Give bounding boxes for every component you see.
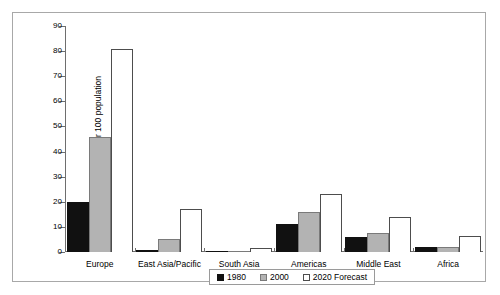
bar[interactable] — [298, 212, 320, 252]
bar[interactable] — [345, 237, 367, 252]
bar[interactable] — [111, 49, 133, 252]
bar[interactable] — [136, 250, 158, 253]
chart-frame: Arrivals generated per 100 population 01… — [12, 12, 486, 282]
bar[interactable] — [206, 251, 228, 252]
bars-container — [204, 26, 274, 252]
bar[interactable] — [389, 217, 411, 252]
x-axis-category-label: Africa — [437, 259, 459, 269]
legend-item-label: 2000 — [270, 272, 289, 282]
bar[interactable] — [250, 248, 272, 252]
bar[interactable] — [415, 247, 437, 252]
y-axis-tick-label: 40 — [53, 146, 62, 157]
legend-swatch-icon — [217, 274, 224, 281]
y-axis-tick-label: 70 — [53, 70, 62, 81]
y-axis-tick-label: 10 — [53, 221, 62, 232]
legend-item[interactable]: 2000 — [260, 272, 289, 282]
bar[interactable] — [89, 137, 111, 253]
bar-group: Americas — [274, 26, 344, 252]
bar[interactable] — [459, 236, 481, 252]
plot-area: 0102030405060708090 EuropeEast Asia/Paci… — [65, 26, 483, 252]
y-axis-tick-label: 20 — [53, 196, 62, 207]
bars-container — [344, 26, 414, 252]
y-axis-tick-label: 30 — [53, 171, 62, 182]
y-axis-tick-label: 90 — [53, 20, 62, 31]
bar[interactable] — [180, 209, 202, 252]
bar-group: Africa — [413, 26, 483, 252]
bars-container — [274, 26, 344, 252]
bar[interactable] — [228, 251, 250, 253]
bar[interactable] — [437, 247, 459, 252]
legend-item[interactable]: 2020 Forecast — [303, 272, 367, 282]
x-axis-category-label: Americas — [291, 259, 326, 269]
x-axis-category-label: Middle East — [356, 259, 400, 269]
bar-group: Middle East — [344, 26, 414, 252]
legend-item-label: 2020 Forecast — [313, 272, 367, 282]
y-axis-tick-label: 60 — [53, 95, 62, 106]
bars-container — [135, 26, 205, 252]
legend-swatch-icon — [260, 274, 267, 281]
chart-legend: 198020002020 Forecast — [209, 269, 375, 285]
x-axis-category-label: South Asia — [219, 259, 260, 269]
legend-swatch-icon — [303, 274, 310, 281]
bar-group: East Asia/Pacific — [135, 26, 205, 252]
y-axis-tick-label: 0 — [58, 246, 62, 257]
x-axis-category-label: East Asia/Pacific — [138, 259, 201, 269]
bars-container — [413, 26, 483, 252]
bar-group: South Asia — [204, 26, 274, 252]
y-axis-tick-label: 80 — [53, 45, 62, 56]
y-axis-tick-label: 50 — [53, 120, 62, 131]
bar[interactable] — [320, 194, 342, 252]
bar[interactable] — [67, 202, 89, 252]
bar[interactable] — [367, 233, 389, 252]
legend-item-label: 1980 — [227, 272, 246, 282]
bar-group: Europe — [65, 26, 135, 252]
bars-container — [65, 26, 135, 252]
x-axis-category-label: Europe — [86, 259, 113, 269]
bar[interactable] — [158, 239, 180, 252]
legend-item[interactable]: 1980 — [217, 272, 246, 282]
bar[interactable] — [276, 224, 298, 252]
